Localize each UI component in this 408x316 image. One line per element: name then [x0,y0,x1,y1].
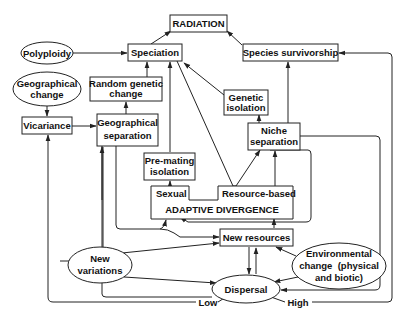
geographical-separation-label-2: separation [103,130,151,141]
geographical-separation-label-1: Geographical [97,117,158,128]
random-genetic-change-label-2: change [109,88,142,99]
genetic-isolation-label-2: isolation [226,102,265,113]
new-variations-label-2: variations [78,265,123,276]
high-label: High [287,297,308,308]
node-species-survivorship: Species survivorship [243,44,339,61]
low-label: Low [199,297,219,308]
dispersal-label: Dispersal [225,284,268,295]
node-geographical-separation: Geographical separation [97,114,158,146]
node-radiation: RADIATION [170,15,227,32]
node-adaptive-divergence: Sexual Resource-based ADAPTIVE DIVERGENC… [151,186,296,219]
niche-separation-label-1: Niche [261,125,287,136]
species-survivorship-label: Species survivorship [243,47,339,58]
radiation-label: RADIATION [172,18,224,29]
arrow-geosep-adaptive [160,220,166,229]
node-new-resources: New resources [220,229,293,246]
arrow-newvar-newres [122,243,219,253]
resource-based-label: Resource-based [222,188,296,199]
node-polyploidy: Polyploidy [21,42,73,64]
node-new-variations: New variations [68,247,132,283]
niche-separation-label-2: separation [250,136,298,147]
arrow-newvar-dispersal [124,277,216,283]
environmental-change-label-2: change (physical [299,260,379,271]
node-geographical-change: Geographical change [13,72,81,106]
arrow-envchange-dispersal [274,277,298,282]
pre-mating-isolation-label-2: isolation [150,166,189,177]
node-dispersal: Dispersal [212,275,280,303]
node-pre-mating-isolation: Pre-mating isolation [144,153,195,180]
arrow-survivorship-radiation [227,31,242,45]
polyploidy-label: Polyploidy [23,48,72,59]
new-resources-label: New resources [223,232,291,243]
node-random-genetic-change: Random genetic change [89,77,163,101]
node-speciation: Speciation [128,44,182,61]
environmental-change-label-3: and biotic) [315,272,363,283]
evolution-diagram: RADIATION Polyploidy Speciation Species … [0,0,408,316]
vicariance-label: Vicariance [23,120,70,131]
arrow-envchange-newres [276,247,296,256]
adaptive-divergence-label: ADAPTIVE DIVERGENCE [165,204,279,215]
node-genetic-isolation: Genetic isolation [224,90,268,115]
speciation-label: Speciation [131,47,179,58]
node-environmental-change: Environmental change (physical and bioti… [292,243,386,289]
pre-mating-isolation-label-1: Pre-mating [145,155,195,166]
node-niche-separation: Niche separation [248,123,300,150]
node-vicariance: Vicariance [22,117,72,134]
sexual-label: Sexual [156,188,187,199]
environmental-change-label-1: Environmental [306,248,372,259]
arrow-speciation-radiation [151,31,171,44]
new-variations-label-1: New [90,253,110,264]
geographical-change-label-2: change [30,89,63,100]
geographical-change-label-1: Geographical [17,78,78,89]
